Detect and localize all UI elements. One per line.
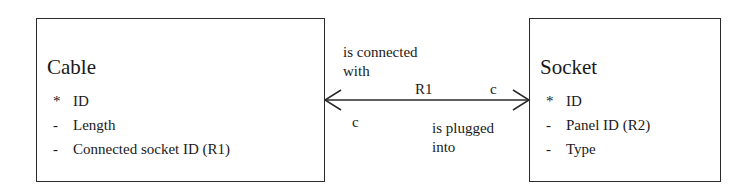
- relationship-connector: [0, 0, 746, 194]
- relationship-forward-phrase: is connected with: [343, 43, 418, 81]
- relationship-id: R1: [415, 80, 433, 99]
- cardinality-cable-end: c: [352, 113, 359, 132]
- relationship-reverse-phrase: is plugged into: [432, 119, 494, 157]
- cardinality-socket-end: c: [490, 80, 497, 99]
